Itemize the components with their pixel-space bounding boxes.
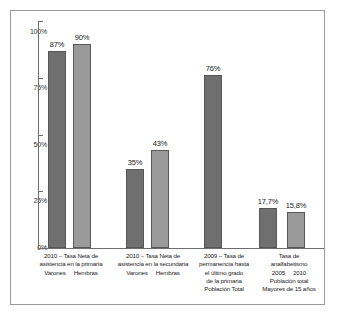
- group-label-line: 2009 – Tasa de: [190, 252, 258, 260]
- bar-value-label: 35%: [119, 158, 151, 167]
- bar-value-label: 76%: [197, 64, 229, 73]
- group-sublabel: Hembras: [70, 269, 102, 277]
- bar-permanencia-total[interactable]: [204, 75, 222, 248]
- bar-value-label: 15,8%: [280, 201, 312, 210]
- group-sublabel: Hembras: [152, 269, 184, 277]
- group-sublabel-row: 20052010: [253, 269, 325, 277]
- group-label-line: 2010 – Tasa Neta de: [110, 252, 196, 260]
- bar-secundaria-hembras[interactable]: [151, 150, 169, 248]
- group-label-secundaria: 2010 – Tasa Neta deasistencia en la secu…: [110, 252, 196, 277]
- plot-area: 87% 90% 35% 43% 76% 17,7% 15,8%: [38, 21, 323, 248]
- group-label-footer-line: Población total: [253, 277, 325, 285]
- bar-primaria-hembras[interactable]: [73, 44, 91, 248]
- bar-primaria-varones[interactable]: [48, 51, 66, 248]
- group-sublabel: 2010: [289, 269, 310, 277]
- group-sublabel: Varones: [122, 269, 152, 277]
- x-axis-line: [38, 248, 324, 249]
- bar-value-label: 90%: [66, 33, 98, 42]
- group-label-line: permanencia hasta: [190, 260, 258, 268]
- bar-analfabetismo-2005[interactable]: [259, 208, 277, 248]
- group-sublabel-row: VaronesHembras: [110, 269, 196, 277]
- group-label-permanencia: 2009 – Tasa depermanencia hastael último…: [190, 252, 258, 293]
- bar-analfabetismo-2010[interactable]: [287, 212, 305, 248]
- bar-value-label: 43%: [144, 139, 176, 148]
- group-label-line: el último grado: [190, 269, 258, 277]
- group-sublabel: 2005: [268, 269, 289, 277]
- group-label-line: 2010 – Tasa Neta de: [28, 252, 114, 260]
- bar-secundaria-varones[interactable]: [126, 169, 144, 248]
- group-label-footer-line: Mayores de 15 años: [253, 285, 325, 293]
- group-label-line: asistencia en la secundaria: [110, 260, 196, 268]
- group-sublabel: Varones: [40, 269, 70, 277]
- group-label-line: Población Total: [190, 285, 258, 293]
- group-label-line: analfabetismo: [253, 260, 325, 268]
- group-label-analfabetismo: Tasa deanalfabetismo20052010Población to…: [253, 252, 325, 293]
- group-label-line: Tasa de: [253, 252, 325, 260]
- group-label-primaria: 2010 – Tasa Neta deasistencia en la prim…: [28, 252, 114, 277]
- group-label-line: asistencia en la primaria: [28, 260, 114, 268]
- group-sublabel-row: VaronesHembras: [28, 269, 114, 277]
- group-label-line: de la primaria: [190, 277, 258, 285]
